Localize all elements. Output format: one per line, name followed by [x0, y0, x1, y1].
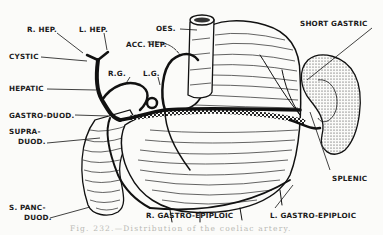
label-acc-hep: ACC. HEP. [126, 41, 167, 49]
label-s-panc-duod-2: DUOD. [24, 214, 52, 222]
coeliac-trunk [147, 98, 157, 108]
label-l-g: L.G. [143, 70, 160, 78]
label-r-gastro-epiploic: R. GASTRO-EPIPLOIC [146, 212, 233, 220]
label-r-g: R.G. [108, 70, 126, 78]
figure-caption: Fig. 232.—Distribution of the coeliac ar… [70, 224, 291, 233]
label-l-gastro-epiploic: L. GASTRO-EPIPLOIC [270, 212, 356, 220]
spleen [301, 55, 360, 154]
anatomy-figure: R. HEP. L. HEP. CYSTIC HEPATIC GASTRO-DU… [0, 0, 383, 235]
label-s-panc-duod-1: S. PANC- [9, 204, 46, 212]
label-short-gastric: SHORT GASTRIC [300, 20, 368, 28]
label-supra-duod-1: SUPRA- [9, 128, 41, 136]
label-l-hep: L. HEP. [79, 26, 108, 34]
label-hepatic: HEPATIC [9, 85, 44, 93]
label-cystic: CYSTIC [9, 53, 39, 61]
label-splenic: SPLENIC [332, 175, 367, 183]
label-gastro-duod: GASTRO-DUOD. [9, 112, 74, 120]
label-oes: OES. [156, 25, 176, 33]
label-r-hep: R. HEP. [27, 26, 57, 34]
label-supra-duod-2: DUOD. [18, 138, 46, 146]
